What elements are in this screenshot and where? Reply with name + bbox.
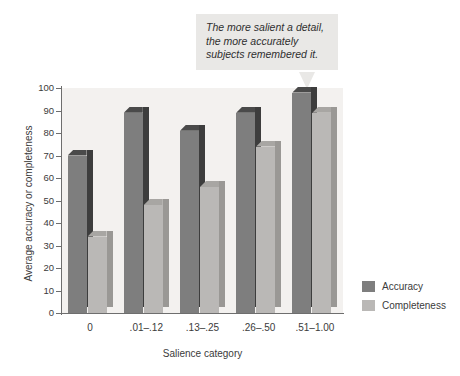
bar-face bbox=[144, 205, 163, 313]
y-axis-tick bbox=[56, 246, 62, 247]
y-axis-tick-label: 40 bbox=[30, 218, 54, 228]
x-axis-tick-label: .51–1.00 bbox=[280, 322, 350, 333]
y-axis-tick-label: 80 bbox=[30, 128, 54, 138]
bar-face bbox=[200, 187, 219, 313]
y-axis-tick bbox=[56, 111, 62, 112]
y-axis-tick bbox=[56, 133, 62, 134]
bar-completeness-1 bbox=[144, 205, 163, 313]
bar-face bbox=[124, 113, 143, 313]
bar-side-3d bbox=[275, 141, 281, 308]
bar-side-3d bbox=[331, 107, 337, 307]
y-axis-tick-label: 90 bbox=[30, 106, 54, 116]
y-axis-tick bbox=[56, 201, 62, 202]
bar-side-3d bbox=[163, 199, 169, 307]
bar-completeness-3 bbox=[256, 147, 275, 314]
y-axis-tick bbox=[56, 178, 62, 179]
bar-accuracy-2 bbox=[180, 131, 199, 313]
bar-face bbox=[68, 156, 87, 314]
bar-face bbox=[88, 237, 107, 314]
y-axis-tick-label: 30 bbox=[30, 241, 54, 251]
y-axis-tick-label: 10 bbox=[30, 286, 54, 296]
y-axis-tick bbox=[56, 291, 62, 292]
bar-face bbox=[292, 93, 311, 314]
x-axis-line bbox=[61, 313, 344, 314]
bar-completeness-2 bbox=[200, 187, 219, 313]
legend-item-completeness: Completeness bbox=[362, 297, 446, 314]
y-axis-tick-label: 70 bbox=[30, 151, 54, 161]
y-axis-tick-label: 50 bbox=[30, 196, 54, 206]
chart-legend: AccuracyCompleteness bbox=[362, 278, 446, 316]
y-axis-tick-label: 0 bbox=[30, 308, 54, 318]
callout-line-3: subjects remembered it. bbox=[206, 48, 329, 62]
y-axis-tick-label: 100 bbox=[30, 83, 54, 93]
x-axis-title: Salience category bbox=[62, 348, 343, 359]
bar-accuracy-4 bbox=[292, 93, 311, 314]
y-axis-tick bbox=[56, 313, 62, 314]
callout-line-2: the more accurately bbox=[206, 35, 329, 49]
bar-accuracy-3 bbox=[236, 113, 255, 313]
legend-item-accuracy: Accuracy bbox=[362, 278, 446, 295]
bar-face bbox=[312, 113, 331, 313]
chart-figure: The more salient a detail, the more accu… bbox=[0, 0, 460, 376]
callout-annotation: The more salient a detail, the more accu… bbox=[196, 14, 338, 70]
y-axis-tick bbox=[56, 223, 62, 224]
bar-accuracy-0 bbox=[68, 156, 87, 314]
bar-accuracy-1 bbox=[124, 113, 143, 313]
y-axis-tick bbox=[56, 268, 62, 269]
y-axis-tick-label: 20 bbox=[30, 263, 54, 273]
bar-face bbox=[256, 147, 275, 314]
bar-side-3d bbox=[107, 231, 113, 308]
legend-swatch-icon bbox=[362, 281, 375, 292]
legend-label: Completeness bbox=[382, 300, 446, 311]
y-axis-tick bbox=[56, 88, 62, 89]
legend-label: Accuracy bbox=[382, 281, 423, 292]
y-axis-tick bbox=[56, 156, 62, 157]
bar-face bbox=[236, 113, 255, 313]
legend-swatch-icon bbox=[362, 300, 375, 311]
bar-completeness-0 bbox=[88, 237, 107, 314]
y-axis-title: Average accuracy or completeness bbox=[23, 104, 34, 304]
bar-face bbox=[180, 131, 199, 313]
bar-side-3d bbox=[219, 181, 225, 307]
bar-completeness-4 bbox=[312, 113, 331, 313]
callout-line-1: The more salient a detail, bbox=[206, 21, 329, 35]
y-axis-tick-label: 60 bbox=[30, 173, 54, 183]
